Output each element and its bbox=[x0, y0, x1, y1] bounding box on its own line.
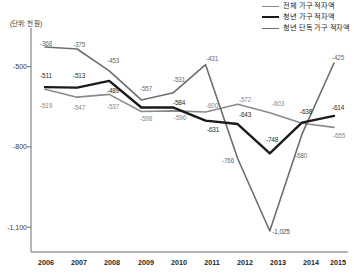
data-point-label: -631 bbox=[207, 126, 219, 133]
data-point-label: -748 bbox=[266, 136, 278, 143]
data-point-label: -600 bbox=[206, 102, 218, 109]
data-point-label: -598 bbox=[140, 115, 152, 122]
data-point-label: -572 bbox=[239, 96, 251, 103]
data-point-label: -584 bbox=[173, 99, 185, 106]
data-point-label: -431 bbox=[206, 55, 218, 62]
data-point-label: -513 bbox=[73, 72, 85, 79]
data-point-label: -519 bbox=[40, 102, 52, 109]
data-point-label: -368 bbox=[40, 40, 52, 47]
data-point-label: -614 bbox=[332, 104, 344, 111]
data-point-label: -537 bbox=[107, 103, 119, 110]
data-point-label: -375 bbox=[73, 41, 85, 48]
data-point-label: -547 bbox=[73, 104, 85, 111]
plot-area bbox=[0, 0, 354, 275]
data-point-label: -655 bbox=[333, 132, 345, 139]
data-point-label: -557 bbox=[140, 85, 152, 92]
line-series-youth-household bbox=[45, 81, 334, 154]
data-point-label: -1,025 bbox=[272, 228, 289, 235]
data-point-label: -603 bbox=[272, 100, 284, 107]
data-point-label: -643 bbox=[239, 111, 251, 118]
data-point-label: -453 bbox=[107, 57, 119, 64]
line-series-total-household bbox=[45, 89, 334, 127]
data-point-label: -489 bbox=[107, 87, 119, 94]
line-series-youth-single-household bbox=[45, 47, 334, 231]
data-point-label: -596 bbox=[174, 114, 186, 121]
data-point-label: -511 bbox=[40, 72, 52, 79]
chart-container: 전체 가구 적자액 청년 가구 적자액 청년 단독 가구 적자액 (단위: 천 … bbox=[0, 0, 354, 275]
data-point-label: -638 bbox=[300, 108, 312, 115]
data-point-label: -531 bbox=[173, 76, 185, 83]
data-point-label: -766 bbox=[222, 157, 234, 164]
data-point-label: -425 bbox=[332, 54, 344, 61]
data-point-label: -680 bbox=[295, 152, 307, 159]
